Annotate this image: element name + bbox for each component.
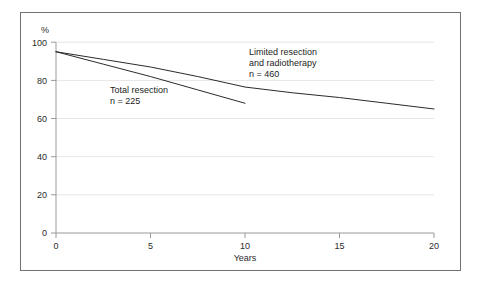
annotation-total-resection: Total resection n = 225 <box>110 85 168 106</box>
y-tick-label-0: 0 <box>42 228 47 238</box>
x-tick-label-0: 0 <box>53 241 58 251</box>
figure-container: % 100 80 60 40 20 0 0 5 10 15 20 Years L… <box>0 0 481 286</box>
annotation-limited-line1: Limited resection <box>249 47 317 57</box>
y-tick-label-20: 20 <box>37 190 47 200</box>
y-tick-label-80: 80 <box>37 76 47 86</box>
gridlines <box>56 42 434 195</box>
annotation-limited-resection: Limited resection and radiotherapy n = 4… <box>249 47 317 79</box>
series-line-total-resection <box>56 52 245 104</box>
annotation-limited-line3: n = 460 <box>249 69 279 79</box>
x-axis-ticks <box>56 233 434 238</box>
annotation-limited-line2: and radiotherapy <box>249 58 317 68</box>
survival-line-chart: % 100 80 60 40 20 0 0 5 10 15 20 Years L… <box>0 0 481 286</box>
annotation-total-line1: Total resection <box>110 85 168 95</box>
x-tick-label-5: 5 <box>148 241 153 251</box>
x-tick-label-15: 15 <box>334 241 344 251</box>
y-tick-label-40: 40 <box>37 152 47 162</box>
y-axis-ticks <box>51 42 56 233</box>
y-tick-label-60: 60 <box>37 114 47 124</box>
annotation-total-line2: n = 225 <box>110 96 140 106</box>
y-tick-label-100: 100 <box>32 38 47 48</box>
x-tick-label-10: 10 <box>240 241 250 251</box>
x-tick-label-20: 20 <box>429 241 439 251</box>
x-axis-title: Years <box>234 253 257 263</box>
y-axis-unit-label: % <box>41 25 49 35</box>
